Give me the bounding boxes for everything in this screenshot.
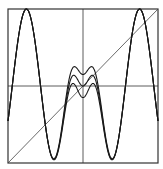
chart-plot (0, 0, 163, 169)
